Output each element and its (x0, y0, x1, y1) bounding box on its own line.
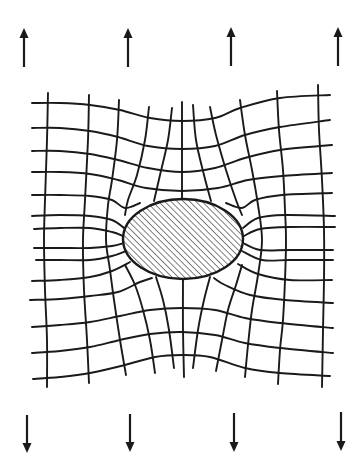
vertical-grid-line-15 (277, 91, 286, 384)
tension-arrows-bottom (23, 412, 346, 453)
arrow-down-icon (126, 442, 135, 452)
deformation-diagram (0, 0, 360, 472)
vertical-grid-line-9 (183, 279, 184, 377)
vertical-grid-line-4 (125, 107, 149, 215)
horizontal-grid-line-6 (226, 193, 332, 208)
vertical-grid-line-2 (83, 95, 89, 383)
arrow-down-3 (230, 413, 239, 452)
horizontal-grid-line-13 (36, 251, 126, 260)
arrow-up-4 (334, 27, 343, 66)
arrow-up-1 (20, 28, 29, 67)
horizontal-grid-line-11 (34, 243, 124, 248)
arrow-up-2 (124, 28, 133, 67)
arrow-down-1 (23, 415, 32, 453)
horizontal-grid-line-10 (244, 227, 335, 236)
arrow-up-icon (124, 28, 133, 38)
horizontal-grid-line-2 (32, 120, 330, 149)
horizontal-grid-line-21 (33, 355, 330, 379)
arrow-down-2 (126, 414, 135, 452)
arrow-down-icon (337, 441, 346, 451)
arrow-down-icon (230, 442, 239, 452)
arrow-up-icon (227, 27, 236, 37)
horizontal-grid-line-1 (32, 95, 330, 121)
vertical-grid-line-1 (44, 93, 48, 387)
horizontal-grid-line-14 (242, 251, 333, 261)
horizontal-grid-line-15 (32, 262, 130, 281)
arrow-down-icon (23, 443, 32, 453)
arrow-up-icon (334, 27, 343, 37)
vertical-grid-line-6 (154, 108, 172, 201)
horizontal-grid-line-9 (34, 228, 123, 236)
vertical-grid-line-16 (318, 85, 324, 387)
arrow-up-icon (20, 28, 29, 38)
arrow-up-3 (227, 27, 236, 66)
arrow-down-4 (337, 412, 346, 451)
tension-arrows-top (20, 27, 343, 67)
vertical-grid-line-11 (193, 277, 210, 368)
hatched-elliptical-inclusion (123, 199, 243, 279)
horizontal-grid-line-7 (32, 215, 124, 228)
vertical-grid-line-13 (216, 265, 242, 371)
horizontal-grid-line-12 (243, 243, 333, 251)
